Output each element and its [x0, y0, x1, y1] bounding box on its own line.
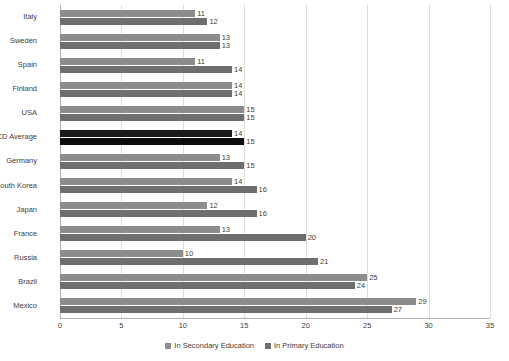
bar-row: Sweden1313 [60, 29, 490, 53]
category-label: Brazil [0, 278, 37, 286]
category-label: Russia [0, 254, 37, 262]
bar-primary [60, 210, 257, 217]
bar-row: France1320 [60, 222, 490, 246]
x-tick-label: 20 [302, 321, 310, 330]
bar-value-label: 24 [355, 282, 365, 289]
bar-value-label: 25 [367, 274, 377, 281]
legend-label: In Primary Education [274, 341, 344, 350]
bar-primary [60, 42, 220, 49]
bar-row: Mexico2927 [60, 294, 490, 318]
bar-row: South Korea1416 [60, 174, 490, 198]
legend-swatch-icon [165, 343, 171, 349]
bar-row: Russia1021 [60, 246, 490, 270]
bar-secondary [60, 34, 220, 41]
legend-swatch-icon [265, 343, 271, 349]
bar-row: Italy1112 [60, 5, 490, 29]
bar-value-label: 12 [207, 202, 217, 209]
plot-area: Italy1112Sweden1313Spain1114Finland1414U… [60, 5, 490, 318]
bar-value-label: 14 [232, 66, 242, 73]
category-label: Spain [0, 61, 37, 69]
bar-primary [60, 138, 244, 145]
legend-label: In Secondary Education [174, 341, 254, 350]
x-axis-line [60, 318, 490, 319]
bar-row: Finland1414 [60, 77, 490, 101]
bar-value-label: 14 [232, 178, 242, 185]
bar-value-label: 15 [244, 114, 254, 121]
bar-primary [60, 282, 355, 289]
bar-secondary [60, 10, 195, 17]
bar-value-label: 29 [416, 298, 426, 305]
x-tick-label: 5 [119, 321, 123, 330]
bar-primary [60, 186, 257, 193]
bar-value-label: 13 [220, 154, 230, 161]
x-tick-label: 0 [58, 321, 62, 330]
bar-row: Japan1216 [60, 198, 490, 222]
x-tick-label: 10 [179, 321, 187, 330]
bar-secondary [60, 274, 367, 281]
bar-value-label: 27 [392, 306, 402, 313]
bar-value-label: 12 [207, 18, 217, 25]
category-label: Finland [0, 85, 37, 93]
bar-value-label: 14 [232, 90, 242, 97]
bar-secondary [60, 298, 416, 305]
category-label: USA [0, 109, 37, 117]
bar-primary [60, 90, 232, 97]
x-tick-label: 35 [486, 321, 494, 330]
bar-value-label: 13 [220, 226, 230, 233]
category-label: South Korea [0, 182, 37, 190]
bar-secondary [60, 226, 220, 233]
bar-secondary [60, 202, 207, 209]
category-label: Italy [0, 13, 37, 21]
category-label: OECD Average [0, 133, 37, 141]
chart-legend: In Secondary EducationIn Primary Educati… [0, 341, 509, 350]
x-tick-label: 15 [240, 321, 248, 330]
bar-primary [60, 114, 244, 121]
bar-primary [60, 162, 244, 169]
bar-value-label: 10 [183, 250, 193, 257]
bar-value-label: 15 [244, 138, 254, 145]
category-label: Sweden [0, 37, 37, 45]
bar-secondary [60, 130, 232, 137]
bar-primary [60, 18, 207, 25]
x-tick-label: 30 [424, 321, 432, 330]
bar-row: OECD Average1415 [60, 125, 490, 149]
bar-primary [60, 66, 232, 73]
bar-row: Brazil2524 [60, 270, 490, 294]
bar-value-label: 21 [318, 258, 328, 265]
category-label: Japan [0, 206, 37, 214]
bar-value-label: 16 [257, 210, 267, 217]
bar-row: USA1515 [60, 101, 490, 125]
x-tick-label: 25 [363, 321, 371, 330]
bar-value-label: 14 [232, 82, 242, 89]
category-label: Mexico [0, 302, 37, 310]
bar-primary [60, 234, 306, 241]
bar-value-label: 14 [232, 130, 242, 137]
legend-item[interactable]: In Secondary Education [165, 341, 254, 350]
bar-value-label: 13 [220, 34, 230, 41]
category-label: Germany [0, 157, 37, 165]
bar-chart: Italy1112Sweden1313Spain1114Finland1414U… [0, 0, 509, 361]
bar-value-label: 20 [306, 234, 316, 241]
bar-primary [60, 306, 392, 313]
bar-row: Germany1315 [60, 149, 490, 173]
bar-secondary [60, 178, 232, 185]
legend-item[interactable]: In Primary Education [265, 341, 344, 350]
bar-secondary [60, 58, 195, 65]
bar-value-label: 11 [195, 58, 205, 65]
bar-rows: Italy1112Sweden1313Spain1114Finland1414U… [60, 5, 490, 318]
bar-secondary [60, 250, 183, 257]
bar-value-label: 16 [257, 186, 267, 193]
bar-secondary [60, 106, 244, 113]
gridline [490, 5, 491, 318]
bar-value-label: 15 [244, 162, 254, 169]
category-label: France [0, 230, 37, 238]
bar-primary [60, 258, 318, 265]
bar-value-label: 13 [220, 42, 230, 49]
bar-value-label: 15 [244, 106, 254, 113]
bar-row: Spain1114 [60, 53, 490, 77]
bar-value-label: 11 [195, 10, 205, 17]
bar-secondary [60, 154, 220, 161]
bar-secondary [60, 82, 232, 89]
